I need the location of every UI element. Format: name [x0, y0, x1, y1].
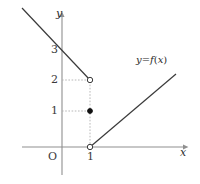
x-tick-label-1: 1 — [87, 151, 94, 162]
curve-label: y=f(x) — [136, 55, 167, 65]
x-axis-label: x — [180, 147, 186, 158]
y-axis-label: y — [56, 8, 62, 19]
y-tick-label-2: 2 — [51, 74, 58, 85]
filled-point-1-1 — [88, 109, 93, 114]
function-graph-figure: y x y=f(x) 3 2 1 O 1 — [0, 0, 200, 184]
open-circle-point-1-0 — [87, 144, 92, 149]
origin-label: O — [48, 151, 57, 162]
open-circle-point-1-2 — [87, 77, 92, 82]
curve-ascending-branch — [90, 74, 176, 147]
plot-canvas — [0, 0, 200, 184]
y-tick-label-3: 3 — [51, 44, 58, 55]
curve-label-close-paren: ) — [163, 54, 167, 65]
y-tick-label-1: 1 — [51, 105, 58, 116]
curve-label-equals: = — [142, 54, 150, 65]
